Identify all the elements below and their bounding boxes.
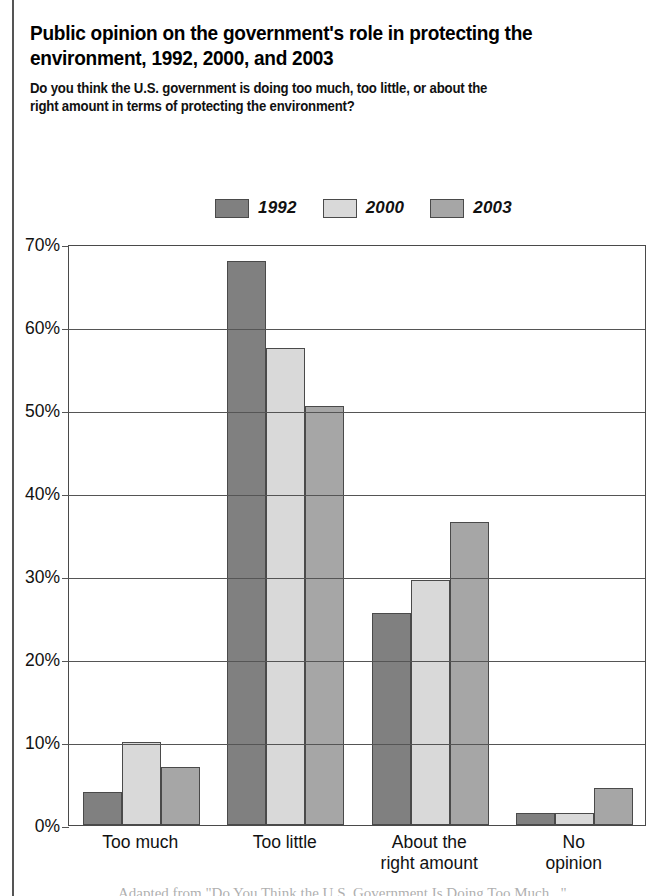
bar-2000-1: [122, 742, 161, 825]
legend-item-2003: 2003: [430, 198, 512, 218]
y-axis-tick: [62, 495, 69, 496]
gridline-50: [69, 412, 645, 413]
x-axis-category-label: Too little: [253, 832, 317, 853]
chart-header: Public opinion on the government's role …: [30, 20, 630, 115]
y-axis-tick-label: 0%: [6, 816, 60, 837]
y-axis-tick-label: 40%: [6, 484, 60, 505]
bar-2003-1: [161, 767, 200, 825]
legend-label-1992: 1992: [258, 198, 297, 218]
legend-label-2003: 2003: [473, 198, 512, 218]
x-axis-category-label: Too much: [102, 832, 178, 853]
bar-2000-3: [411, 580, 450, 825]
chart-legend: 199220002003: [215, 198, 512, 218]
legend-swatch-2003: [430, 199, 464, 218]
x-axis-labels: Too muchToo littleAbout the right amount…: [68, 832, 646, 892]
chart-page: Public opinion on the government's role …: [0, 0, 659, 896]
bar-2003-3: [450, 522, 489, 825]
y-axis-tick-label: 50%: [6, 401, 60, 422]
y-axis-tick: [62, 744, 69, 745]
bar-2000-2: [266, 348, 305, 825]
bar-1992-1: [83, 792, 122, 825]
plot-wrapper: 0%10%20%30%40%50%60%70%: [68, 245, 646, 826]
gridline-10: [69, 744, 645, 745]
bars-layer: [69, 246, 645, 825]
y-axis-tick-label: 60%: [6, 318, 60, 339]
y-axis-tick: [62, 661, 69, 662]
legend-item-1992: 1992: [215, 198, 297, 218]
bar-2003-2: [305, 406, 344, 825]
legend-swatch-1992: [215, 199, 249, 218]
x-axis-category-label: No opinion: [538, 832, 610, 874]
y-axis-tick: [62, 412, 69, 413]
bar-2003-4: [594, 788, 633, 825]
bar-1992-4: [516, 813, 555, 825]
plot-area: [68, 245, 646, 826]
gridline-40: [69, 495, 645, 496]
page-title: Public opinion on the government's role …: [30, 20, 588, 70]
bar-2000-4: [555, 813, 594, 825]
y-axis-tick-label: 10%: [6, 733, 60, 754]
x-axis-category-label: About the right amount: [381, 832, 478, 874]
y-axis-tick-label: 70%: [6, 235, 60, 256]
legend-label-2000: 2000: [366, 198, 405, 218]
legend-item-2000: 2000: [323, 198, 405, 218]
chart-subtitle: Do you think the U.S. government is doin…: [30, 79, 588, 115]
legend-swatch-2000: [323, 199, 357, 218]
gridline-60: [69, 329, 645, 330]
gridline-20: [69, 661, 645, 662]
y-axis-tick-label: 30%: [6, 567, 60, 588]
source-caption: Adapted from "Do You Think the U.S. Gove…: [118, 884, 588, 896]
y-axis-labels: 0%10%20%30%40%50%60%70%: [6, 245, 60, 826]
y-axis-tick: [62, 827, 69, 828]
y-axis-tick-label: 20%: [6, 650, 60, 671]
y-axis-tick: [62, 246, 69, 247]
y-axis-tick: [62, 578, 69, 579]
bar-1992-2: [227, 261, 266, 825]
y-axis-tick: [62, 329, 69, 330]
gridline-30: [69, 578, 645, 579]
bar-1992-3: [372, 613, 411, 825]
